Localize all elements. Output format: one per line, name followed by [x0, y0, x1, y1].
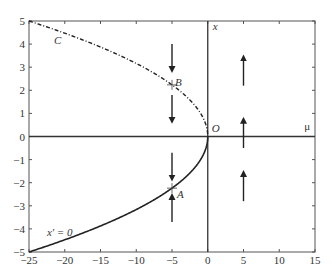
annotation: x' = 0 — [46, 226, 73, 238]
y-tick-label: 3 — [20, 61, 26, 73]
point-label-O: O — [212, 122, 220, 134]
x-tick-label: −20 — [56, 254, 74, 266]
point-label-A: A — [176, 188, 184, 200]
annotation: C — [54, 34, 62, 46]
y-tick-label: −3 — [13, 200, 25, 212]
x-tick-label: 15 — [310, 254, 322, 266]
y-tick-label: 1 — [20, 107, 26, 119]
annotation: x — [212, 20, 218, 32]
x-tick-label: −15 — [92, 254, 110, 266]
annotation: μ — [304, 120, 310, 132]
y-tick-label: 4 — [20, 38, 26, 50]
bifurcation-chart: −25−20−15−10−5051015−5−4−3−2−1012345 ABO… — [0, 0, 336, 278]
y-tick-label: −5 — [13, 246, 25, 258]
x-tick-label: 5 — [241, 254, 247, 266]
y-tick-label: −4 — [13, 223, 25, 235]
y-tick-label: 5 — [20, 15, 26, 27]
y-tick-label: 0 — [20, 131, 26, 143]
x-tick-label: −10 — [128, 254, 146, 266]
y-tick-label: 2 — [20, 84, 26, 96]
x-tick-label: 10 — [274, 254, 286, 266]
equilibrium-points: ABO — [167, 76, 220, 200]
y-tick-label: −1 — [13, 154, 25, 166]
x-tick-label: 0 — [205, 254, 211, 266]
annotations: Cx' = 0xμ — [46, 20, 310, 238]
point-label-B: B — [175, 76, 182, 88]
x-tick-label: −5 — [166, 254, 178, 266]
y-tick-label: −2 — [13, 177, 25, 189]
